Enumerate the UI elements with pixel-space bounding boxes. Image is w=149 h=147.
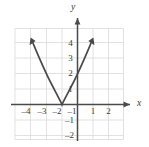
x-tick-label: –4: [20, 107, 32, 116]
x-axis-label: x: [137, 99, 141, 109]
y-tick-label: –2: [63, 131, 76, 140]
y-tick-label: 4: [66, 39, 75, 48]
x-tick-label: –2: [51, 107, 63, 116]
y-tick-label: 3: [66, 54, 75, 63]
y-tick-label: 1: [66, 85, 75, 94]
y-axis-label: y: [71, 3, 75, 13]
x-tick-label: –3: [36, 107, 48, 116]
y-tick-label: 2: [66, 69, 75, 78]
x-tick-label: 2: [104, 107, 113, 116]
y-tick-label: –1: [63, 116, 76, 125]
graph-figure: y x –4 –3 –2 –1 1 2 4 3 2 1 –1 –2: [0, 0, 149, 147]
x-tick-label: 1: [89, 107, 97, 116]
